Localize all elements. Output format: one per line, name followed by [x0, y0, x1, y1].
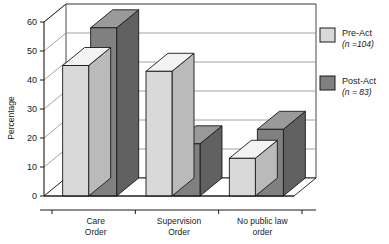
x-category-label: Order — [168, 227, 190, 237]
y-tick-label: 0 — [32, 191, 37, 201]
x-category-label: Order — [85, 227, 107, 237]
y-axis-title: Percentage — [6, 96, 16, 140]
y-tick-label: 10 — [27, 162, 37, 172]
bar-pre-act-cat0 — [63, 48, 111, 197]
x-axis-category-labels: CareOrderSupervisionOrderNo public lawor… — [85, 216, 289, 237]
bar-chart-figure: 0102030405060 CareOrderSupervisionOrderN… — [0, 0, 389, 244]
chart-canvas: 0102030405060 CareOrderSupervisionOrderN… — [0, 0, 389, 244]
legend-sublabel-post-act: (n = 83) — [342, 87, 372, 97]
y-axis-tick-labels: 0102030405060 — [27, 17, 37, 201]
y-tick-label: 20 — [27, 133, 37, 143]
legend-swatch-pre-act — [320, 28, 335, 42]
y-tick-label: 60 — [27, 17, 37, 27]
legend-swatch-post-act — [320, 76, 335, 90]
legend-sublabel-pre-act: (n =104) — [342, 39, 374, 49]
x-category-label: order — [252, 227, 272, 237]
y-tick-label: 50 — [27, 46, 37, 56]
x-category-label: Care — [86, 216, 105, 226]
y-tick-label: 30 — [27, 104, 37, 114]
y-tick-label: 40 — [27, 75, 37, 85]
legend-label-post-act: Post-Act — [342, 76, 377, 86]
bar-pre-act-cat1 — [146, 53, 194, 196]
x-category-label: Supervision — [157, 216, 202, 226]
legend-label-pre-act: Pre-Act — [342, 28, 373, 38]
chart-legend: Pre-Act(n =104)Post-Act(n = 83) — [320, 28, 377, 97]
x-category-label: No public law — [237, 216, 288, 226]
